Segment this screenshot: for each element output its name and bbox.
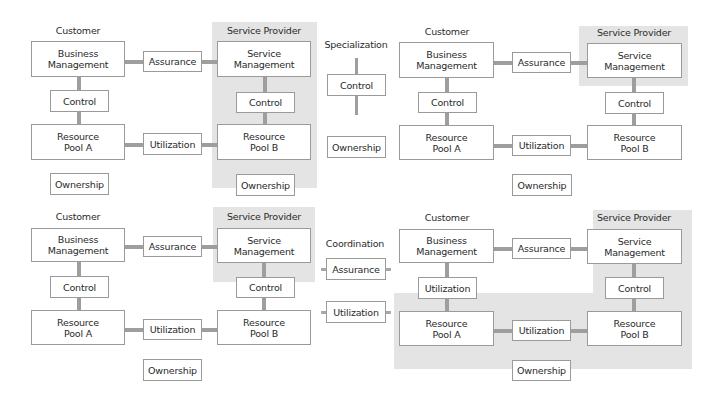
utilization-box: Utilization [512, 135, 571, 156]
control-customer-box: Control [418, 92, 477, 113]
ownership-box: Ownership [327, 136, 386, 158]
control-provider-box: Control [236, 277, 295, 298]
customer-label: Customer [425, 212, 470, 223]
service-management-box: Service Management [587, 43, 682, 78]
resource-pool-b-box: Resource Pool B [587, 125, 682, 160]
control-provider-box: Control [236, 92, 295, 113]
utilization-customer-box: Utilization [418, 277, 477, 299]
resource-pool-a-box: Resource Pool A [31, 124, 125, 160]
customer-label: Customer [56, 211, 101, 222]
ownership-provider-box: Ownership [236, 174, 295, 196]
coordination-title: Coordination [326, 238, 384, 249]
resource-pool-b-box: Resource Pool B [217, 310, 311, 345]
specialization-title: Specialization [324, 39, 387, 50]
customer-label: Customer [425, 26, 470, 37]
utilization-box: Utilization [512, 320, 571, 341]
business-management-box: Business Management [399, 229, 494, 263]
provider-label: Service Provider [227, 25, 301, 36]
ownership-box: Ownership [143, 359, 202, 381]
ownership-box: Ownership [512, 174, 572, 196]
control-box: Control [327, 74, 386, 96]
utilization-box: Utilization [143, 319, 202, 340]
control-customer-box: Control [50, 90, 109, 112]
provider-label: Service Provider [597, 27, 671, 38]
business-management-box: Business Management [31, 228, 125, 262]
customer-label: Customer [56, 25, 101, 36]
assurance-box: Assurance [326, 258, 386, 280]
ownership-box: Ownership [512, 360, 571, 381]
ownership-customer-box: Ownership [50, 173, 109, 195]
provider-label: Service Provider [227, 211, 301, 222]
service-management-box: Service Management [587, 229, 682, 264]
service-management-box: Service Management [217, 228, 311, 263]
resource-pool-a-box: Resource Pool A [399, 125, 494, 160]
utilization-box: Utilization [143, 133, 202, 155]
connector-stub [386, 268, 391, 271]
business-management-box: Business Management [399, 42, 494, 78]
service-management-box: Service Management [217, 41, 311, 77]
resource-pool-b-box: Resource Pool B [587, 311, 682, 346]
business-management-box: Business Management [31, 41, 125, 77]
assurance-box: Assurance [143, 236, 202, 257]
provider-label: Service Provider [597, 212, 671, 223]
resource-pool-a-box: Resource Pool A [31, 310, 125, 345]
control-provider-box: Control [605, 277, 664, 299]
resource-pool-a-box: Resource Pool A [399, 311, 494, 346]
assurance-box: Assurance [512, 52, 571, 73]
control-customer-box: Control [50, 276, 109, 298]
utilization-box: Utilization [326, 301, 386, 323]
control-provider-box: Control [605, 92, 664, 114]
assurance-box: Assurance [143, 51, 202, 72]
assurance-box: Assurance [512, 238, 571, 259]
resource-pool-b-box: Resource Pool B [217, 124, 311, 160]
connector-stub [386, 311, 391, 314]
